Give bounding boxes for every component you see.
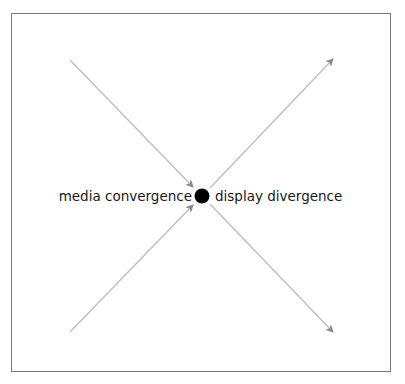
arrow-incoming-bottom-left <box>70 205 193 332</box>
arrow-outgoing-top-right <box>210 59 333 188</box>
arrow-incoming-top-left <box>70 60 193 187</box>
arrow-outgoing-bottom-right <box>210 204 333 332</box>
media-convergence-label: media convergence <box>59 188 192 204</box>
center-node-dot <box>195 189 210 204</box>
display-divergence-label: display divergence <box>215 188 342 204</box>
